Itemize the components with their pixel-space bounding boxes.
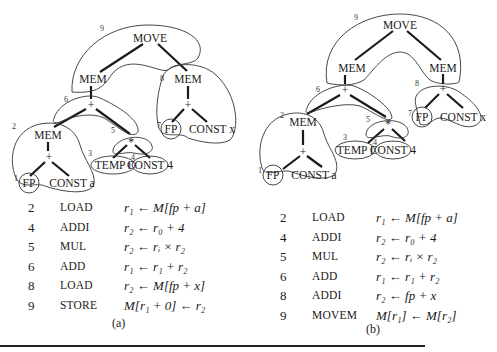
svg-text:5: 5 — [366, 115, 370, 124]
instruction-row: 8ADDIr₂ ← fp + x — [280, 286, 458, 306]
tree-a: MOVE MEM MEM + MEM + FP CONST a * TEMP i… — [12, 24, 236, 193]
node-plus-2: + — [300, 146, 307, 158]
node-plus-mid: + — [88, 99, 95, 111]
instruction-row: 5MULr₂ ← rᵢ × r₂ — [280, 247, 458, 267]
node-const-x: CONST x — [440, 111, 486, 123]
node-const-a: CONST a — [291, 169, 336, 181]
svg-text:8: 8 — [160, 74, 164, 83]
instructions-a: 2LOADr₁ ← M[fp + a] 4ADDIr₂ ← r₀ + 4 5MU… — [28, 198, 206, 315]
svg-text:7: 7 — [157, 121, 161, 130]
node-temp-i: TEMP i — [337, 144, 373, 156]
svg-text:8: 8 — [415, 79, 419, 88]
horizontal-rule — [0, 345, 425, 347]
instruction-row: 6ADDr₁ ← r₁ + r₂ — [280, 267, 458, 287]
node-fp-1: FP — [267, 169, 280, 181]
node-temp-i: TEMP i — [95, 159, 131, 171]
node-plus-right: + — [185, 99, 192, 111]
instructions-b: 2LOADr₁ ← M[fp + a] 4ADDIr₂ ← r₀ + 4 5MU… — [280, 208, 458, 325]
node-const-x: CONST x — [189, 123, 235, 135]
svg-text:3: 3 — [88, 149, 92, 158]
svg-text:2: 2 — [280, 111, 284, 120]
tree-b: MOVE MEM MEM + MEM + FP CONST a * TEMP i… — [258, 13, 486, 185]
node-mem-right: MEM — [429, 62, 456, 74]
svg-text:7: 7 — [408, 109, 412, 118]
instruction-row: 2LOADr₁ ← M[fp + a] — [28, 198, 206, 218]
node-const-a: CONST a — [49, 177, 94, 189]
node-star: * — [385, 118, 391, 130]
instruction-row: 4ADDIr₂ ← r₀ + 4 — [280, 228, 458, 248]
node-move: MOVE — [383, 19, 417, 31]
instruction-row: 5MULr₂ ← rᵢ × r₂ — [28, 237, 206, 257]
node-plus-2: + — [46, 151, 53, 163]
node-plus-right: + — [440, 83, 447, 95]
node-mem-left: MEM — [79, 73, 106, 85]
svg-text:3: 3 — [343, 133, 347, 142]
node-mem-2: MEM — [289, 116, 316, 128]
svg-text:4: 4 — [373, 138, 377, 147]
node-fp-1: FP — [23, 177, 36, 189]
svg-text:2: 2 — [12, 122, 16, 131]
instruction-row: 8LOADr₂ ← M[fp + x] — [28, 276, 206, 296]
caption-b: (b) — [366, 322, 380, 337]
node-star: * — [128, 136, 134, 148]
node-move: MOVE — [133, 32, 167, 44]
svg-text:6: 6 — [316, 85, 320, 94]
instruction-row: 4ADDIr₂ ← r₀ + 4 — [28, 218, 206, 238]
svg-text:1: 1 — [14, 174, 18, 183]
svg-text:4: 4 — [131, 153, 135, 162]
instruction-row: 2LOADr₁ ← M[fp + a] — [280, 208, 458, 228]
node-fp-7: FP — [416, 111, 429, 123]
instruction-row: 6ADDr₁ ← r₁ + r₂ — [28, 257, 206, 277]
node-plus-mid: + — [342, 84, 349, 96]
svg-text:6: 6 — [64, 95, 68, 104]
svg-text:1: 1 — [258, 166, 262, 175]
svg-text:9: 9 — [100, 24, 104, 33]
node-fp-7: FP — [165, 123, 178, 135]
svg-text:5: 5 — [111, 126, 115, 135]
instruction-row: 9STOREM[r₁ + 0] ← r₂ — [28, 296, 206, 316]
node-mem-2: MEM — [34, 129, 61, 141]
svg-text:9: 9 — [354, 13, 358, 22]
node-mem-right: MEM — [174, 73, 201, 85]
node-mem-left: MEM — [338, 62, 365, 74]
caption-a: (a) — [112, 316, 125, 331]
